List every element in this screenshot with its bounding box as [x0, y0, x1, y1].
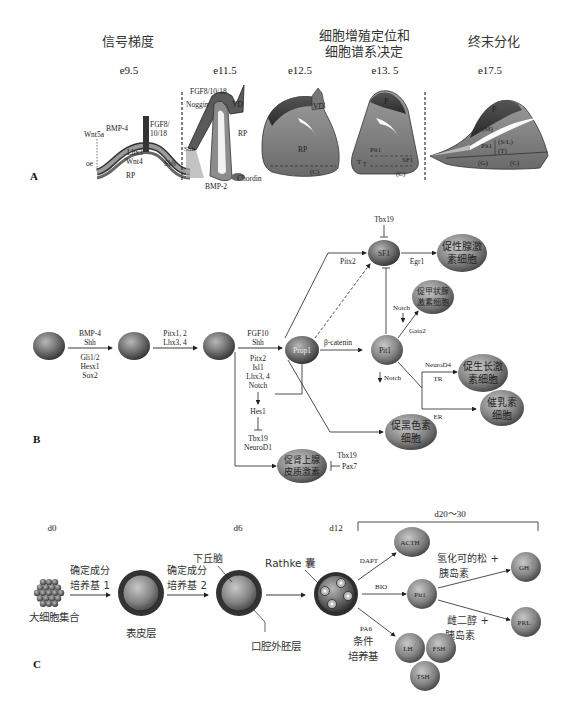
label-estradiol: 雌二醇 + — [447, 614, 489, 626]
panel-b: BMP-4 Shh Gli1/2 Hesx1 Sox2 Pitx1, 2 Lhx… — [33, 215, 524, 483]
label-fgf8-10-18: FGF8/10/18 — [190, 87, 227, 96]
aggregate-cell — [49, 584, 55, 590]
label-sl-e175: (S/L) — [498, 138, 513, 146]
stage-e13-5: e13. 5 — [372, 64, 399, 76]
d20-30-bracket — [358, 522, 538, 531]
label-pitx12: Pitx1, 2 — [163, 329, 187, 338]
label-t-e175: (T) — [498, 147, 508, 155]
aggregate-cell — [37, 595, 43, 601]
label-fsh: FSH — [433, 645, 446, 653]
aggregate-cell — [46, 579, 52, 585]
label-rp-e125: RP — [298, 145, 307, 154]
label-vd-e125: VD — [313, 102, 324, 111]
label-melanotroph-1: 促黑色素 — [391, 419, 431, 431]
e17-5-diagram: P (M) Pit1 (S/L) (T) (G) (C) — [430, 100, 548, 169]
label-rp-e115: RP — [238, 129, 247, 138]
label-bmp2: BMP-2 — [205, 182, 227, 191]
label-tr: TR — [434, 375, 443, 383]
label-bmp4-b: BMP-4 — [79, 329, 101, 338]
label-acth: ACTH — [400, 539, 419, 547]
label-gonadotroph-2: 素细胞 — [447, 253, 477, 265]
label-somatotroph-2: 素细胞 — [468, 373, 498, 385]
label-prl: PRL — [518, 619, 531, 627]
label-medium2-a: 确定成分 — [167, 564, 207, 576]
label-hydrocortisone: 氢化可的松 + — [437, 552, 499, 564]
label-prop1: Prop1 — [293, 346, 311, 355]
label-tbx19-low: Tbx19 — [337, 451, 357, 460]
label-wnt5a: Wnt5a — [84, 130, 105, 139]
gonadotroph-cell — [437, 234, 487, 272]
label-pax7: Pax7 — [342, 462, 357, 471]
label-tsh: TSH — [416, 673, 429, 681]
label-thyrotroph-1: 促甲状腺 — [417, 286, 449, 296]
aggregate-cell — [46, 601, 52, 607]
day-d12: d12 — [329, 523, 343, 533]
label-lactotroph-1: 催乳素 — [487, 396, 517, 408]
stage-e12-5: e12.5 — [288, 64, 313, 76]
progenitor-cell-2 — [118, 332, 150, 360]
aggregate-cell — [55, 595, 61, 601]
cell-aggregate — [34, 579, 64, 607]
aggregate-cell — [43, 595, 49, 601]
label-m-e175: (M) — [482, 125, 494, 133]
panel-b-label: B — [33, 433, 41, 445]
label-10-18: 10/18 — [150, 129, 167, 138]
label-p-e135: P — [384, 97, 389, 106]
aggregate-cell — [40, 601, 46, 607]
label-lh: LH — [403, 645, 412, 653]
stage-e9-5: e9.5 — [120, 64, 139, 76]
label-insulin-1: 胰岛素 — [439, 567, 469, 579]
aggregate-cell — [37, 584, 43, 590]
stage-e11-5: e11.5 — [213, 64, 237, 76]
aggregate-cell — [55, 584, 61, 590]
aggregate-cell — [52, 601, 58, 607]
stage-e17-5: e17.5 — [478, 64, 503, 76]
label-shh: Shh — [164, 159, 176, 168]
e9-5-diagram: Wnt5a BMP-4 FGF8/ 10/18 Lhx3 Wnt4 oe Shh… — [84, 116, 190, 180]
label-somatotroph-1: 促生长激 — [463, 360, 503, 372]
label-thyrotroph-2: 激素细胞 — [417, 297, 449, 307]
label-notch-thyro: Notch — [393, 304, 411, 312]
label-p-e175: P — [492, 105, 497, 114]
progenitor-cell-3 — [203, 332, 235, 360]
day-d6: d6 — [234, 523, 244, 533]
header-signal-gradient: 信号梯度 — [102, 34, 154, 49]
day-d20-30: d20～30 — [434, 509, 466, 519]
label-er: ER — [434, 413, 443, 421]
label-corticotroph-2: 皮质激素 — [284, 466, 320, 477]
label-isl1: Isl1 — [252, 363, 264, 372]
label-wnt4: Wnt4 — [126, 157, 143, 166]
panel-c-label: C — [33, 658, 41, 670]
label-medium1-a: 确定成分 — [70, 564, 110, 576]
label-tbx19-neuro: Tbx19 — [248, 434, 268, 443]
label-notch-b: Notch — [249, 381, 268, 390]
label-lhx34-a: Lhx3, 4 — [163, 338, 187, 347]
aggregate-cell — [40, 590, 46, 596]
label-conditioned-1: 条件 — [353, 635, 373, 647]
label-t2-e135: T — [363, 161, 367, 167]
label-bmp4: BMP-4 — [106, 124, 128, 133]
header-proliferation-1: 细胞增殖定位和 — [319, 28, 410, 43]
aggregate-cell — [58, 590, 64, 596]
header-terminal-diff: 终末分化 — [468, 34, 520, 49]
label-lhx34-b: Lhx3, 4 — [246, 372, 270, 381]
label-epidermis: 表皮层 — [126, 627, 156, 639]
label-dapt: DAPT — [360, 557, 379, 565]
label-c-e175: (C) — [510, 159, 520, 167]
figure-canvas: 信号梯度 细胞增殖定位和 细胞谱系决定 终末分化 e9.5 e11.5 e12.… — [0, 0, 563, 704]
label-aggregate: 大细胞集合 — [29, 611, 80, 623]
label-shh-b1: Shh — [84, 338, 96, 347]
label-hes1: Hes1 — [250, 407, 266, 416]
label-pitx2-sf1: Pitx2 — [340, 257, 356, 266]
e12-5-diagram: VD RP (C) — [262, 88, 339, 176]
label-fgf8: FGF8/ — [150, 120, 171, 129]
label-fgf10: FGF10 — [247, 329, 269, 338]
label-c-e125: (C) — [310, 168, 320, 176]
dashed-arrow-prop1-sf1 — [315, 264, 370, 338]
label-sox2: Sox2 — [82, 371, 98, 380]
label-corticotroph-1: 促肾上腺 — [284, 454, 320, 465]
label-pit1: Pit1 — [379, 346, 391, 355]
e11-5-diagram: FGF8/10/18 Noggin VD RP Shh BMP-2 Chordi… — [184, 85, 262, 191]
label-medium2-b: 培养基 2 — [167, 579, 207, 591]
aggregate-cell — [52, 579, 58, 585]
